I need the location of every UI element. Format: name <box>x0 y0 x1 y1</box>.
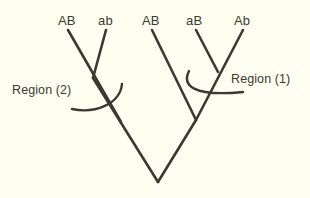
phylogenetic-tree-figure: AB ab AB aB Ab Region (2) Region (1) <box>0 0 310 198</box>
branch-tip-ab <box>93 30 106 78</box>
region-1-label: Region (1) <box>231 73 290 86</box>
region-2-label: Region (2) <box>12 84 71 97</box>
tip-label-ab-right-2: Ab <box>234 14 250 27</box>
tip-label-ab-middle: AB <box>142 14 160 27</box>
branch-tip-aB <box>196 30 218 72</box>
tip-label-ab-left-2: ab <box>98 14 113 27</box>
branch-tip-AB-middle <box>152 30 196 120</box>
tip-label-ab-left-1: AB <box>58 14 76 27</box>
branch-right-clade-stem <box>158 120 196 182</box>
branch-left-clade-stem <box>93 78 158 182</box>
region-2-arc <box>72 84 122 110</box>
tip-label-ab-right-1: aB <box>186 14 202 27</box>
tree-canvas <box>0 0 310 198</box>
